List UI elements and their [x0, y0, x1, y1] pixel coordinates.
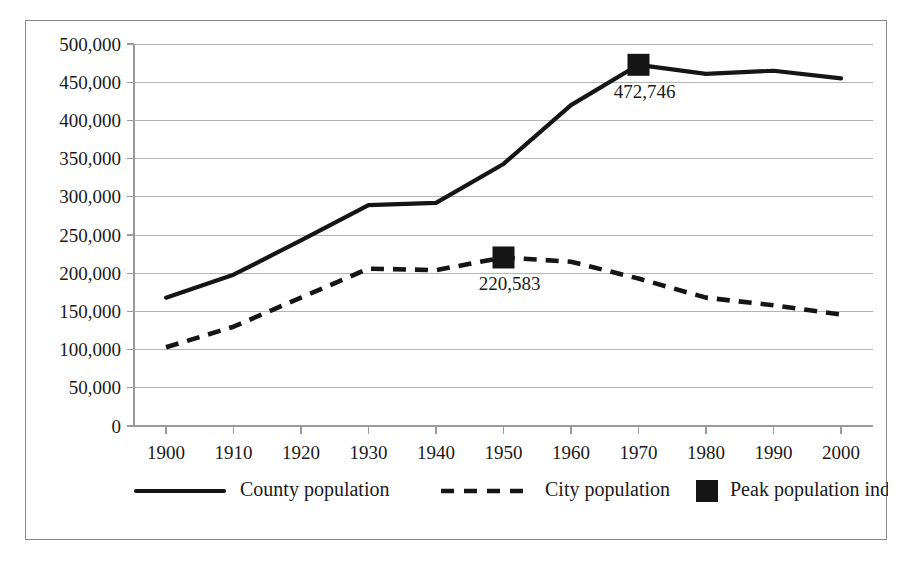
gridlines	[134, 44, 873, 388]
y-axis-tick-label: 150,000	[59, 301, 121, 322]
peak-label-county-peak: 472,746	[614, 81, 676, 102]
y-axis-tick-labels: 050,000100,000150,000200,000250,000300,0…	[59, 34, 121, 437]
legend-swatch-square-marker	[696, 480, 718, 502]
x-axis-tick-label: 1980	[687, 442, 725, 463]
x-axis-tick-label: 1990	[755, 442, 793, 463]
y-axis-tick-label: 0	[112, 416, 122, 437]
x-axis-tick-label: 2000	[822, 442, 860, 463]
y-axis-tick-label: 350,000	[59, 148, 121, 169]
x-axis-tick-label: 1940	[417, 442, 455, 463]
y-axis-tickmarks	[127, 44, 134, 426]
y-axis-tick-label: 500,000	[59, 34, 121, 55]
legend-item-0: County population	[136, 478, 389, 501]
legend-label-county-population: County population	[240, 478, 389, 501]
y-axis-tick-label: 450,000	[59, 72, 121, 93]
legend-item-1: City population	[441, 478, 670, 501]
x-axis-tickmarks	[166, 426, 841, 434]
y-axis-tick-label: 50,000	[69, 377, 121, 398]
plot-area: 050,000100,000150,000200,000250,000300,0…	[26, 21, 888, 541]
chart-legend: County populationCity populationPeak pop…	[136, 478, 888, 502]
x-axis-tick-label: 1920	[282, 442, 320, 463]
peak-marker-city-peak	[493, 246, 515, 268]
x-axis-tick-label: 1900	[147, 442, 185, 463]
x-axis-tick-label: 1950	[485, 442, 523, 463]
y-axis-tick-label: 250,000	[59, 225, 121, 246]
x-axis-tick-labels: 1900191019201930194019501960197019801990…	[147, 442, 860, 463]
x-axis-tick-label: 1960	[552, 442, 590, 463]
peak-marker-county-peak	[628, 54, 650, 76]
y-axis-tick-label: 300,000	[59, 186, 121, 207]
series-line-city-population	[166, 257, 841, 347]
x-axis-tick-label: 1910	[215, 442, 253, 463]
y-axis-tick-label: 200,000	[59, 263, 121, 284]
y-axis-tick-label: 400,000	[59, 110, 121, 131]
x-axis-tick-label: 1930	[350, 442, 388, 463]
y-axis-tick-label: 100,000	[59, 339, 121, 360]
peak-label-city-peak: 220,583	[479, 273, 541, 294]
legend-item-2: Peak population indicated	[696, 478, 888, 502]
x-axis-tick-label: 1970	[620, 442, 658, 463]
legend-label-peak-population: Peak population indicated	[730, 478, 888, 501]
chart-frame: 050,000100,000150,000200,000250,000300,0…	[25, 20, 887, 540]
legend-label-city-population: City population	[545, 478, 670, 501]
population-line-chart: 050,000100,000150,000200,000250,000300,0…	[26, 21, 888, 541]
